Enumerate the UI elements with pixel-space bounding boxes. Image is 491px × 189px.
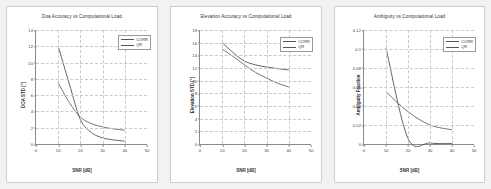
gridline-horizontal: [200, 30, 311, 31]
chart-panel-doa-accuracy: Doa Accuracy vs Computational Load DOA S…: [6, 6, 158, 183]
figure-root: Doa Accuracy vs Computational Load DOA S…: [0, 0, 491, 189]
legend-line-swatch-qr: [283, 47, 296, 48]
gridline-horizontal: [364, 68, 474, 69]
y-axis-tick-label: 0.12: [353, 28, 361, 33]
x-axis-tick-label: 40: [122, 148, 127, 153]
x-axis-tick-label: 50: [309, 148, 314, 153]
y-axis-tick-label: 6: [195, 103, 197, 108]
x-axis-tick-label: 30: [428, 148, 433, 153]
gridline-horizontal: [200, 93, 311, 94]
y-axis-tick-label: 0.1: [355, 46, 361, 51]
x-axis-tick-label: 20: [78, 148, 83, 153]
x-axis-tick-label: 40: [286, 148, 291, 153]
legend: CORR QR: [443, 37, 476, 52]
y-axis-tick-label: 16: [192, 40, 197, 45]
legend: CORR QR: [280, 37, 313, 52]
x-axis-tick-label: 20: [406, 148, 411, 153]
legend-label-corr: CORR: [461, 40, 473, 44]
chart-title: Elevation Accuracy vs Computational Load: [171, 14, 321, 19]
legend-label-qr: QR: [298, 45, 304, 49]
y-axis-tick-label: 10: [192, 78, 197, 83]
x-axis-tick-label: 50: [145, 148, 150, 153]
gridline-horizontal: [36, 30, 147, 31]
y-axis-label: Ambiguity Fraction: [356, 74, 361, 115]
x-axis-tick-label: 10: [384, 148, 389, 153]
gridline-horizontal: [36, 95, 147, 96]
y-axis-tick-label: 12: [192, 65, 197, 70]
y-axis-tick-label: 14: [28, 28, 33, 33]
x-axis-label: SNR [dB]: [335, 168, 484, 173]
gridline-vertical: [408, 30, 409, 144]
gridline-vertical: [58, 30, 59, 144]
gridline-horizontal: [200, 55, 311, 56]
legend-item-corr: CORR: [283, 40, 310, 44]
y-axis-tick-label: 0.02: [353, 123, 361, 128]
chart-panel-ambiguity: Ambiguity vs Computational Load Ambiguit…: [334, 6, 485, 183]
y-axis-tick-label: 0: [359, 142, 361, 147]
chart-title: Doa Accuracy vs Computational Load: [7, 14, 157, 19]
gridline-horizontal: [36, 128, 147, 129]
x-axis-tick-label: 20: [242, 148, 247, 153]
x-axis-tick-label: 10: [220, 148, 225, 153]
legend: CORR QR: [118, 35, 151, 50]
gridline-horizontal: [36, 111, 147, 112]
x-axis-tick-label: 50: [472, 148, 477, 153]
series-line-qr: [58, 83, 125, 130]
y-axis-tick-label: 0.04: [353, 103, 361, 108]
gridline-vertical: [103, 30, 104, 144]
y-axis-tick-label: 4: [195, 116, 197, 121]
x-axis-label: SNR [dB]: [171, 168, 321, 173]
legend-line-swatch-qr: [121, 45, 134, 46]
chart-title: Ambiguity vs Computational Load: [335, 14, 484, 19]
x-axis-tick-label: 10: [56, 148, 61, 153]
series-line-corr: [386, 48, 452, 147]
y-axis-tick-label: 0: [31, 142, 33, 147]
legend-item-qr: QR: [446, 45, 473, 49]
x-axis-tick-label: 0: [35, 148, 37, 153]
gridline-horizontal: [36, 79, 147, 80]
gridline-horizontal: [364, 106, 474, 107]
gridline-vertical: [267, 30, 268, 144]
legend-label-corr: CORR: [298, 40, 310, 44]
gridline-vertical: [80, 30, 81, 144]
y-axis-tick-label: 8: [31, 76, 33, 81]
gridline-horizontal: [364, 125, 474, 126]
legend-line-swatch-corr: [121, 39, 134, 40]
x-axis-tick-label: 0: [363, 148, 365, 153]
gridline-horizontal: [200, 106, 311, 107]
y-axis-label: DOA STD [°]: [21, 81, 26, 107]
x-axis-tick-label: 30: [100, 148, 105, 153]
legend-item-corr: CORR: [121, 38, 148, 42]
legend-label-qr: QR: [136, 43, 142, 47]
gridline-vertical: [430, 30, 431, 144]
gridline-horizontal: [200, 119, 311, 120]
gridline-horizontal: [364, 87, 474, 88]
y-axis-tick-label: 4: [31, 109, 33, 114]
y-axis-tick-label: 10: [28, 60, 33, 65]
legend-item-corr: CORR: [446, 40, 473, 44]
x-axis-tick-label: 0: [199, 148, 201, 153]
gridline-horizontal: [200, 131, 311, 132]
gridline-vertical: [244, 30, 245, 144]
y-axis-tick-label: 8: [195, 91, 197, 96]
legend-item-qr: QR: [283, 45, 310, 49]
y-axis-tick-label: 0.08: [353, 65, 361, 70]
y-axis-tick-label: 12: [28, 44, 33, 49]
gridline-horizontal: [36, 63, 147, 64]
legend-label-corr: CORR: [136, 38, 148, 42]
y-axis-tick-label: 14: [192, 53, 197, 58]
chart-panel-elevation-accuracy: Elevation Accuracy vs Computational Load…: [170, 6, 322, 183]
y-axis-tick-label: 18: [192, 28, 197, 33]
y-axis-tick-label: 0.06: [353, 85, 361, 90]
legend-line-swatch-corr: [446, 41, 459, 42]
y-axis-tick-label: 6: [31, 93, 33, 98]
gridline-horizontal: [364, 30, 474, 31]
gridline-horizontal: [200, 68, 311, 69]
x-axis-tick-label: 40: [450, 148, 455, 153]
legend-item-qr: QR: [121, 43, 148, 47]
y-axis-tick-label: 0: [195, 142, 197, 147]
gridline-vertical: [386, 30, 387, 144]
y-axis-tick-label: 2: [195, 129, 197, 134]
gridline-horizontal: [200, 81, 311, 82]
y-axis-tick-label: 2: [31, 125, 33, 130]
